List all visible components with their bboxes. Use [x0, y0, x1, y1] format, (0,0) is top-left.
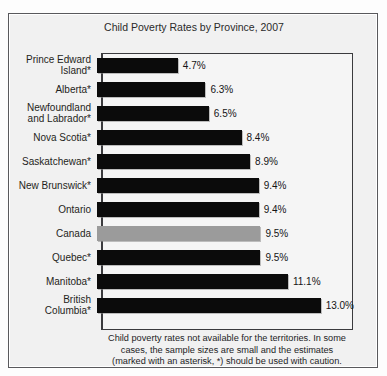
bar-track: 8.9%: [97, 149, 379, 173]
bar-value-label: 9.4%: [264, 180, 287, 191]
bar-value-label: 13.0%: [326, 300, 354, 311]
bar-track: 11.1%: [97, 269, 379, 293]
bar-value-label: 8.9%: [255, 156, 278, 167]
category-label-line1: New Brunswick*: [19, 180, 91, 191]
bar-row: Quebec*9.5%: [9, 245, 379, 269]
bar-track: 9.4%: [97, 173, 379, 197]
bar-value-label: 9.5%: [265, 252, 288, 263]
bar-row: Ontario9.4%: [9, 197, 379, 221]
screenshot-stage: Child Poverty Rates by Province, 2007 Pr…: [0, 0, 387, 376]
chart-figure: Child Poverty Rates by Province, 2007 Pr…: [8, 13, 378, 368]
bar: [97, 106, 209, 121]
chart-title: Child Poverty Rates by Province, 2007: [9, 21, 379, 33]
bar-track: 9.5%: [97, 245, 379, 269]
bar-value-label: 6.3%: [210, 84, 233, 95]
bar-track: 9.5%: [97, 221, 379, 245]
category-label-line1: Prince Edward: [26, 54, 91, 65]
bar-row: Saskatchewan*8.9%: [9, 149, 379, 173]
category-label-line2: Island*: [9, 65, 91, 76]
category-label-line1: British: [63, 294, 91, 305]
category-label-line1: Newfoundland: [27, 102, 91, 113]
bar: [97, 298, 321, 313]
category-label-line1: Ontario: [58, 204, 91, 215]
footnote-line: Child poverty rates not available for th…: [101, 333, 353, 345]
category-label-line1: Quebec*: [52, 252, 91, 263]
bar-value-label: 9.4%: [264, 204, 287, 215]
bar: [97, 226, 260, 241]
bar-value-label: 9.5%: [265, 228, 288, 239]
category-label: Prince EdwardIsland*: [9, 54, 97, 76]
category-label: Saskatchewan*: [9, 156, 97, 167]
bar-row: Nova Scotia*8.4%: [9, 125, 379, 149]
category-label-line2: and Labrador*: [9, 113, 91, 124]
bar-track: 8.4%: [97, 125, 379, 149]
bar: [97, 130, 242, 145]
category-label-line1: Saskatchewan*: [22, 156, 91, 167]
category-label-line1: Canada: [56, 228, 91, 239]
bar-row: Prince EdwardIsland*4.7%: [9, 53, 379, 77]
bar: [97, 274, 288, 289]
bar-value-label: 6.5%: [214, 108, 237, 119]
category-label-line1: Nova Scotia*: [33, 132, 91, 143]
bar-track: 4.7%: [97, 53, 379, 77]
bar-row: Alberta*6.3%: [9, 77, 379, 101]
footnote-line: (marked with an asterisk, *) should be u…: [101, 356, 353, 368]
bar-track: 6.5%: [97, 101, 379, 125]
clipped-page-text: [0, 0, 387, 9]
bar-track: 9.4%: [97, 197, 379, 221]
category-label-line1: Alberta*: [55, 84, 91, 95]
bar-row: New Brunswick*9.4%: [9, 173, 379, 197]
bar-row: Manitoba*11.1%: [9, 269, 379, 293]
category-label: Quebec*: [9, 252, 97, 263]
category-label: Canada: [9, 228, 97, 239]
bar: [97, 202, 259, 217]
category-label-line2: Columbia*: [9, 305, 91, 316]
category-label: Nova Scotia*: [9, 132, 97, 143]
bar: [97, 82, 205, 97]
bar: [97, 58, 178, 73]
bar-value-label: 11.1%: [293, 276, 321, 287]
bar-track: 13.0%: [97, 293, 379, 317]
chart-footnote: Child poverty rates not available for th…: [101, 333, 353, 368]
bar-value-label: 8.4%: [247, 132, 270, 143]
bar-row: Canada9.5%: [9, 221, 379, 245]
bar: [97, 250, 260, 265]
bar: [97, 178, 259, 193]
bar-track: 6.3%: [97, 77, 379, 101]
category-label: Newfoundlandand Labrador*: [9, 102, 97, 124]
category-label: BritishColumbia*: [9, 294, 97, 316]
category-label: Alberta*: [9, 84, 97, 95]
bar-rows: Prince EdwardIsland*4.7%Alberta*6.3%Newf…: [9, 53, 379, 330]
bar: [97, 154, 250, 169]
category-label: Manitoba*: [9, 276, 97, 287]
category-label: New Brunswick*: [9, 180, 97, 191]
bar-value-label: 4.7%: [183, 60, 206, 71]
bar-row: BritishColumbia*13.0%: [9, 293, 379, 317]
category-label-line1: Manitoba*: [46, 276, 91, 287]
footnote-line: cases, the sample sizes are small and th…: [101, 345, 353, 357]
category-label: Ontario: [9, 204, 97, 215]
bar-row: Newfoundlandand Labrador*6.5%: [9, 101, 379, 125]
